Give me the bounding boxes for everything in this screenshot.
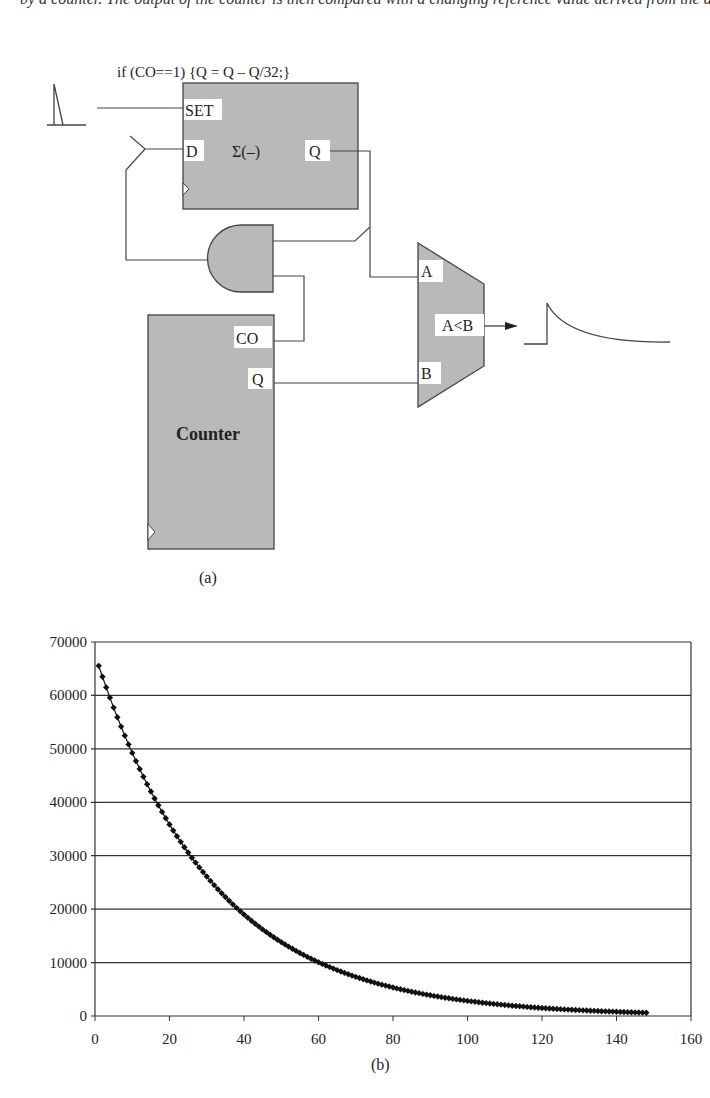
data-point-marker [122, 732, 128, 738]
data-point-marker [293, 948, 299, 954]
comparator-b-label: B [421, 365, 432, 382]
data-point-marker [211, 882, 217, 888]
data-point-marker [554, 1006, 560, 1012]
data-point-marker [453, 996, 459, 1002]
data-point-marker [416, 990, 422, 996]
y-tick-label: 40000 [50, 794, 88, 810]
data-point-marker [382, 982, 388, 988]
comparator-out-label: A<B [442, 317, 473, 334]
data-point-marker [546, 1005, 552, 1011]
data-point-marker [639, 1009, 645, 1015]
data-point-marker [114, 714, 120, 720]
data-point-marker [300, 952, 306, 958]
data-point-marker [237, 908, 243, 914]
and-gate [208, 225, 273, 292]
data-point-marker [289, 946, 295, 952]
data-point-marker [628, 1009, 634, 1015]
data-point-marker [181, 844, 187, 850]
data-point-marker [148, 788, 154, 794]
data-point-marker [278, 939, 284, 945]
y-tick-label: 20000 [50, 901, 88, 917]
data-point-marker [595, 1008, 601, 1014]
data-point-marker [207, 878, 213, 884]
data-point-marker [140, 774, 146, 780]
x-tick-label: 20 [162, 1031, 177, 1047]
data-point-marker [394, 985, 400, 991]
data-point-marker [215, 886, 221, 892]
data-point-marker [464, 998, 470, 1004]
data-point-marker [263, 929, 269, 935]
data-point-marker [408, 988, 414, 994]
data-point-marker [226, 898, 232, 904]
data-point-marker [405, 988, 411, 994]
x-tick-label: 60 [311, 1031, 326, 1047]
data-point-marker [513, 1003, 519, 1009]
y-tick-label: 50000 [50, 741, 88, 757]
register-d-label: D [186, 143, 198, 160]
x-tick-label: 140 [605, 1031, 628, 1047]
data-point-marker [613, 1009, 619, 1015]
data-point-marker [345, 971, 351, 977]
y-tick-label: 0 [80, 1008, 88, 1024]
data-point-marker [177, 839, 183, 845]
data-point-marker [312, 957, 318, 963]
data-point-marker [390, 984, 396, 990]
data-point-marker [315, 959, 321, 965]
data-point-marker [129, 750, 135, 756]
data-point-marker [569, 1007, 575, 1013]
data-point-marker [423, 991, 429, 997]
data-point-marker [487, 1000, 493, 1006]
data-point-marker [636, 1009, 642, 1015]
data-point-marker [308, 955, 314, 961]
data-point-marker [505, 1002, 511, 1008]
data-point-marker [282, 941, 288, 947]
data-point-marker [319, 961, 325, 967]
data-point-marker [572, 1007, 578, 1013]
data-point-marker [99, 674, 105, 680]
data-point-marker [174, 833, 180, 839]
data-point-marker [222, 894, 228, 900]
data-point-marker [580, 1007, 586, 1013]
chart-gridlines [91, 642, 691, 1016]
data-point-marker [427, 992, 433, 998]
data-point-marker [457, 997, 463, 1003]
data-point-marker [241, 911, 247, 917]
data-point-marker [468, 998, 474, 1004]
data-point-marker [606, 1008, 612, 1014]
data-point-marker [509, 1002, 515, 1008]
data-point-marker [233, 905, 239, 911]
data-point-marker [133, 758, 139, 764]
data-point-marker [438, 994, 444, 1000]
data-point-marker [107, 694, 113, 700]
data-point-marker [531, 1004, 537, 1010]
data-point-marker [557, 1006, 563, 1012]
data-point-marker [602, 1008, 608, 1014]
data-point-marker [446, 995, 452, 1001]
set-pulse-waveform [47, 84, 86, 125]
data-point-marker [230, 901, 236, 907]
data-point-marker [252, 921, 258, 927]
data-point-marker [576, 1007, 582, 1013]
output-arrow-icon [505, 322, 518, 330]
data-point-marker [479, 999, 485, 1005]
data-point-marker [151, 795, 157, 801]
circuit-diagram: if (CO==1) {Q = Q – Q/32;} SET D Σ(–) Q … [0, 0, 709, 620]
data-point-marker [520, 1003, 526, 1009]
data-point-marker [218, 890, 224, 896]
y-axis-ticks: 010000200003000040000500006000070000 [50, 634, 88, 1024]
data-point-marker [535, 1005, 541, 1011]
data-point-marker [286, 943, 292, 949]
data-point-marker [524, 1004, 530, 1010]
data-point-marker [259, 926, 265, 932]
data-point-marker [200, 869, 206, 875]
data-point-marker [543, 1005, 549, 1011]
chart-series-q [96, 663, 650, 1016]
diagram-caption: (a) [199, 569, 217, 587]
data-point-marker [528, 1004, 534, 1010]
data-point-marker [349, 972, 355, 978]
data-point-marker [498, 1001, 504, 1007]
data-point-marker [435, 993, 441, 999]
data-point-marker [472, 999, 478, 1005]
data-point-marker [483, 1000, 489, 1006]
data-point-marker [461, 997, 467, 1003]
